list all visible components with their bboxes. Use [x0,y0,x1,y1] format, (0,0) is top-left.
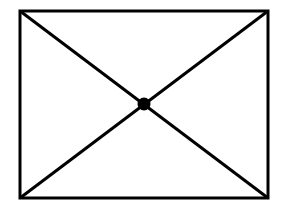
figure-canvas [0,0,289,212]
rectangle-diagonals-figure [0,0,289,212]
center-intersection-node [138,98,151,111]
